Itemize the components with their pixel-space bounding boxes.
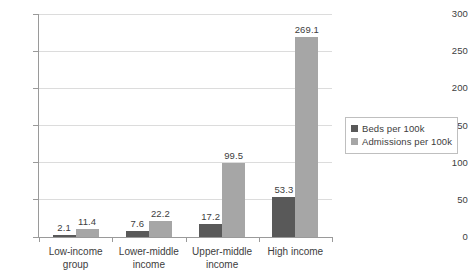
bar-admissions[interactable]	[222, 163, 245, 237]
bar-value-label: 99.5	[214, 151, 253, 161]
plot-area: 2.111.47.622.217.299.553.3269.1	[39, 14, 332, 237]
y-axis-tick-label: 50	[438, 195, 468, 205]
bar-group: 17.299.5	[186, 14, 259, 237]
legend-item[interactable]: Admissions per 100k	[351, 135, 452, 148]
x-axis-category-label: Low-income group	[39, 246, 112, 271]
chart-legend: Beds per 100k Admissions per 100k	[345, 117, 458, 154]
legend-swatch-beds-icon	[351, 125, 358, 132]
legend-label-beds: Beds per 100k	[362, 124, 425, 134]
bar-chart: 050100150200250300 2.111.47.622.217.299.…	[0, 0, 468, 272]
y-axis-tick-label: 250	[438, 46, 468, 56]
bar-admissions[interactable]	[295, 37, 318, 237]
bar-value-label: 269.1	[287, 25, 326, 35]
x-axis-category-label: Lower-middle income	[112, 246, 185, 271]
legend-label-admissions: Admissions per 100k	[362, 137, 452, 147]
bar-group: 2.111.4	[39, 14, 112, 237]
y-axis-tick-label: 300	[438, 9, 468, 19]
x-axis-separator-tick	[186, 238, 187, 242]
bar-group: 7.622.2	[112, 14, 185, 237]
x-axis-separator-tick	[39, 238, 40, 242]
bar-beds[interactable]	[272, 197, 295, 237]
x-axis-separator-tick	[332, 238, 333, 242]
legend-swatch-admissions-icon	[351, 138, 358, 145]
bar-admissions[interactable]	[76, 229, 99, 237]
y-axis-tick-label: 0	[438, 232, 468, 242]
y-axis-tick-label: 100	[438, 158, 468, 168]
x-axis-category-label: High income	[259, 246, 332, 259]
legend-item[interactable]: Beds per 100k	[351, 122, 452, 135]
bar-value-label: 11.4	[68, 217, 107, 227]
x-axis-category-label: Upper-middle income	[186, 246, 259, 271]
x-axis-separator-tick	[259, 238, 260, 242]
bar-beds[interactable]	[199, 224, 222, 237]
y-axis-tick-label: 200	[438, 83, 468, 93]
x-axis-separator-tick	[112, 238, 113, 242]
bar-value-label: 22.2	[141, 209, 180, 219]
bar-admissions[interactable]	[149, 221, 172, 238]
bar-group: 53.3269.1	[259, 14, 332, 237]
